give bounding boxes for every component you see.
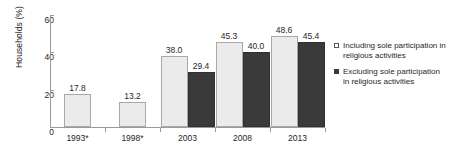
open-square-swatch-icon [334,43,339,48]
legend-item-label: Including sole participation in religiou… [343,41,446,60]
x-axis-tick-label: 1993* [50,133,105,143]
bar-including-2013 [271,36,298,127]
bar-value-label: 17.8 [58,83,97,93]
x-axis-tick-label: 1998* [105,133,160,143]
x-axis-tick-mark [325,128,326,132]
bar-including-1998 [119,102,146,127]
bar-excluding-2008 [243,52,270,127]
bar-including-2008 [216,42,243,127]
y-axis-tick-label: 40 [8,52,54,62]
filled-square-swatch-icon [334,69,339,74]
bar-value-label: 45.3 [210,31,249,41]
legend-item-label: Excluding sole participation in religiou… [343,67,440,86]
legend-item-including[interactable]: Including sole participation in religiou… [334,41,448,60]
x-axis-tick-label: 2008 [215,133,270,143]
plot-area: 17.813.238.029.445.340.048.645.4 [50,15,325,127]
x-axis-tick-mark [160,128,161,132]
chart-legend: Including sole participation in religiou… [334,41,448,93]
y-axis-tick-label: 0 [8,127,54,137]
bar-excluding-2013 [298,42,325,127]
bar-including-1993 [64,94,91,127]
y-axis-tick-group: 0 [0,127,54,128]
x-axis-tick-mark [105,128,106,132]
y-axis-tick-label: 20 [8,90,54,100]
bar-value-label: 45.4 [292,31,331,41]
y-axis-tick-label: 60 [8,15,54,25]
bar-value-label: 38.0 [155,45,194,55]
x-axis-tick-label: 2013 [270,133,325,143]
bar-chart: Households (%) 0 20 40 60 17.813.238.029… [0,0,450,153]
y-axis-tick-group: 20 [0,90,54,91]
bar-excluding-2003 [188,72,215,127]
y-axis-tick-group: 60 [0,15,54,16]
x-axis-tick-label: 2003 [160,133,215,143]
x-axis-tick-mark [270,128,271,132]
bar-value-label: 13.2 [113,91,152,101]
y-axis-title: Households (%) [14,0,24,82]
y-axis-tick-group: 40 [0,52,54,53]
x-axis-line [50,127,325,128]
legend-item-excluding[interactable]: Excluding sole participation in religiou… [334,67,448,86]
x-axis-tick-mark [215,128,216,132]
